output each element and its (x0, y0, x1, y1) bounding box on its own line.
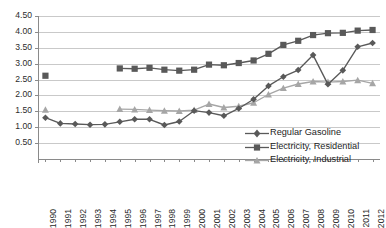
data-point-marker (221, 62, 227, 68)
series-line (120, 30, 373, 71)
data-point-marker (206, 109, 213, 116)
data-point-marker (87, 121, 94, 128)
legend-item-electricity-industrial[interactable]: Electricity, Industrial (244, 153, 384, 167)
data-point-marker (57, 120, 64, 127)
legend-item-electricity-residential[interactable]: Electricity, Residential (244, 140, 384, 154)
series-regular-gasoline (42, 40, 376, 129)
data-point-marker (102, 121, 109, 128)
data-point-marker (325, 30, 331, 36)
data-point-marker (265, 51, 271, 57)
series-electricity-residential (42, 27, 375, 79)
data-point-marker (161, 122, 168, 129)
legend-label-electricity-industrial: Electricity, Industrial (270, 155, 351, 164)
data-point-marker (42, 73, 48, 79)
data-point-marker (206, 101, 213, 107)
data-point-marker (355, 28, 361, 34)
data-point-marker (116, 119, 123, 126)
legend-label-electricity-residential: Electricity, Residential (270, 142, 359, 151)
legend-swatch-triangle-icon (244, 153, 270, 166)
data-point-marker (72, 121, 79, 128)
data-point-marker (146, 116, 153, 123)
data-point-marker (176, 68, 182, 74)
data-point-marker (265, 91, 272, 97)
data-point-marker (117, 65, 123, 71)
data-point-marker (161, 67, 167, 73)
data-point-marker (131, 116, 138, 123)
data-point-marker (206, 62, 212, 68)
data-point-marker (369, 27, 375, 33)
data-point-marker (280, 73, 287, 80)
data-point-marker (340, 30, 346, 36)
data-point-marker (221, 112, 228, 119)
series-electricity-industrial (42, 77, 376, 114)
data-point-marker (146, 65, 152, 71)
data-point-marker (42, 114, 49, 121)
data-point-marker (132, 66, 138, 72)
series-line (120, 80, 373, 111)
legend-swatch-square-icon (244, 140, 270, 153)
legend-swatch-diamond-icon (244, 126, 270, 139)
data-point-marker (280, 42, 286, 48)
data-point-marker (369, 40, 376, 47)
data-point-marker (354, 44, 361, 51)
data-point-marker (236, 60, 242, 66)
data-point-marker (295, 38, 301, 44)
data-point-marker (310, 32, 316, 38)
data-point-marker (42, 106, 49, 112)
data-point-marker (191, 67, 197, 73)
chart-legend: Regular Gasoline Electricity, Residentia… (244, 126, 384, 168)
data-point-marker (251, 57, 257, 63)
legend-item-regular-gasoline[interactable]: Regular Gasoline (244, 126, 384, 140)
legend-label-regular-gasoline: Regular Gasoline (270, 128, 341, 137)
